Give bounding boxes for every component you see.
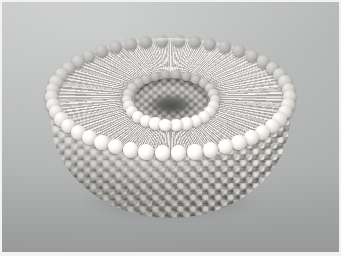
aqueous-lumen (134, 78, 208, 123)
illustration-figure: Phospholipid bilayer vesicle (liposome) … (0, 0, 341, 256)
liposome-vesicle (48, 38, 293, 218)
illustration-plate: Phospholipid bilayer vesicle (liposome) … (2, 2, 339, 252)
lumen-wall-beads (134, 78, 208, 123)
